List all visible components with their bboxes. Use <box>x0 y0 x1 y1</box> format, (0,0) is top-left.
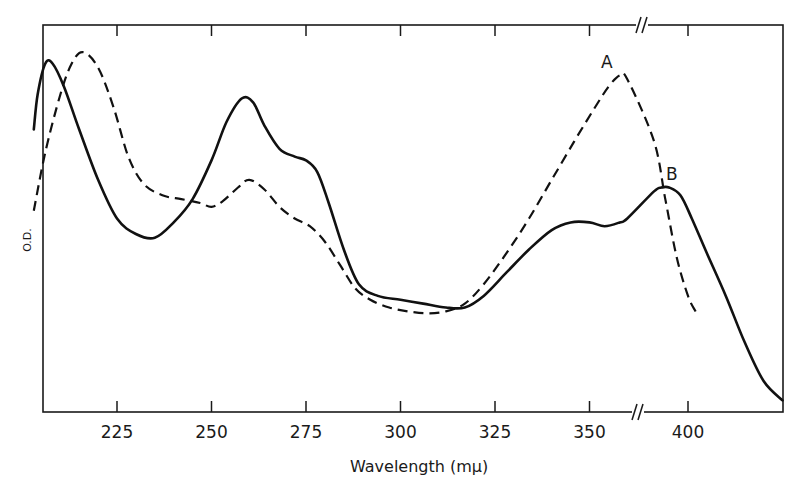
curve-label-b: B <box>666 164 678 184</box>
y-axis-label: O.D. <box>21 228 34 252</box>
x-axis-label: Wavelength (mμ) <box>350 457 488 476</box>
x-tick-label: 225 <box>101 422 133 442</box>
x-axis-ticks-top <box>117 25 688 36</box>
x-axis-break-bottom <box>632 404 644 420</box>
x-tick-label: 400 <box>672 422 704 442</box>
absorption-spectrum-chart: 225250275300325350400 A B Wavelength (mμ… <box>0 0 799 491</box>
x-tick-label: 300 <box>384 422 416 442</box>
x-tick-label: 250 <box>195 422 227 442</box>
x-tick-label: 325 <box>479 422 511 442</box>
plot-frame <box>43 25 783 412</box>
x-axis-ticks-bottom <box>117 401 688 412</box>
series-a-dashed-line <box>34 52 696 313</box>
x-axis-break-top <box>636 17 648 33</box>
x-tick-label: 350 <box>573 422 605 442</box>
curve-label-a: A <box>601 52 613 72</box>
x-tick-label: 275 <box>290 422 322 442</box>
x-axis-tick-labels: 225250275300325350400 <box>101 422 704 442</box>
